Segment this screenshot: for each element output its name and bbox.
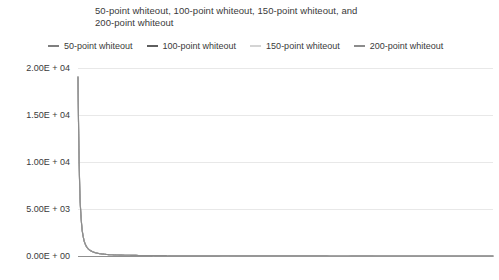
y-tick-label: 1.50E + 04 <box>26 110 70 120</box>
chart-legend: 50-point whiteout 100-point whiteout 150… <box>48 39 478 53</box>
plot-area <box>78 56 493 276</box>
legend-item-200-point-whiteout[interactable]: 200-point whiteout <box>354 41 444 52</box>
legend-item-50-point-whiteout[interactable]: 50-point whiteout <box>48 41 133 52</box>
plot-wrapper: 2.00E + 04 1.50E + 04 1.00E + 04 5.00E +… <box>0 56 499 276</box>
y-tick-label: 2.00E + 04 <box>26 63 70 73</box>
legend-item-150-point-whiteout[interactable]: 150-point whiteout <box>250 41 340 52</box>
y-tick-label: 1.00E + 04 <box>26 157 70 167</box>
legend-swatch-icon <box>354 45 365 48</box>
legend-swatch-icon <box>147 45 158 48</box>
legend-swatch-icon <box>250 45 261 48</box>
legend-label: 100-point whiteout <box>163 41 237 52</box>
legend-item-100-point-whiteout[interactable]: 100-point whiteout <box>147 41 237 52</box>
series-line <box>78 76 493 255</box>
legend-label: 150-point whiteout <box>266 41 340 52</box>
y-tick-label: 5.00E + 03 <box>26 204 70 214</box>
chart-container: 50-point whiteout, 100-point whiteout, 1… <box>0 0 499 280</box>
series-line <box>78 78 493 256</box>
legend-label: 200-point whiteout <box>370 41 444 52</box>
series-plot <box>78 56 493 276</box>
legend-swatch-icon <box>48 45 59 48</box>
series-line <box>78 77 493 256</box>
y-tick-label: 0.00E + 00 <box>26 251 70 261</box>
chart-title-line-2: 200-point whiteout <box>95 17 405 29</box>
chart-title-line-1: 50-point whiteout, 100-point whiteout, 1… <box>95 5 405 17</box>
series-line <box>78 78 493 256</box>
chart-title: 50-point whiteout, 100-point whiteout, 1… <box>95 5 405 29</box>
y-axis: 2.00E + 04 1.50E + 04 1.00E + 04 5.00E +… <box>0 56 74 276</box>
legend-label: 50-point whiteout <box>64 41 133 52</box>
